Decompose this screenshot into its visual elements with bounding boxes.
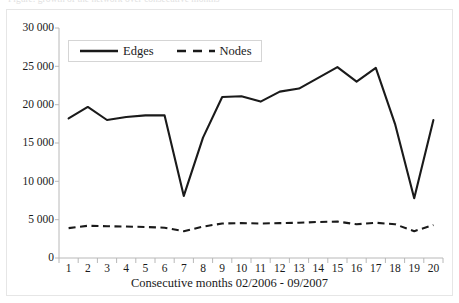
legend-label-nodes: Nodes [220,45,252,58]
legend-label-edges: Edges [123,45,154,58]
legend-dashed-line-icon [176,45,216,57]
y-axis-tick-labels: 30 000 25 000 20 000 15 000 10 000 5 000… [0,0,54,303]
y-tick-label: 25 000 [2,61,54,73]
y-tick-label: 20 000 [2,99,54,111]
legend-entry-edges: Edges [79,41,154,61]
x-tick-label: 20 [422,262,444,275]
y-tick-label: 10 000 [2,176,54,188]
y-axis-ticks [55,28,59,258]
y-tick-label: 30 000 [2,22,54,34]
plot-area [59,28,443,258]
y-tick-label: 5 000 [2,214,54,226]
chart-legend: Edges Nodes [68,40,262,62]
x-axis-title: Consecutive months 02/2006 - 09/2007 [0,276,459,290]
chart-figure: Figure: growth of the network over conse… [0,0,459,303]
legend-solid-line-icon [79,45,119,57]
legend-entry-nodes: Nodes [176,41,252,61]
y-tick-label: 15 000 [2,137,54,149]
